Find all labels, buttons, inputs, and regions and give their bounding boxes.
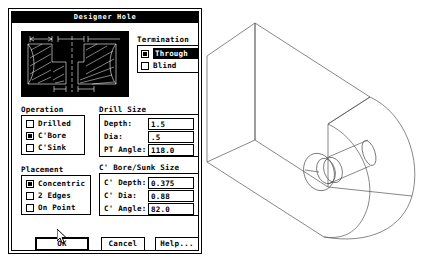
drill-shaft-top-line bbox=[326, 140, 368, 158]
radio-indicator-icon bbox=[26, 120, 34, 128]
radio-label: C'Bore bbox=[38, 131, 66, 140]
label-cbore-angle: C' Angle: bbox=[104, 204, 148, 213]
radio-operation-cbore[interactable]: C'Bore bbox=[26, 130, 66, 141]
radio-indicator-icon bbox=[141, 50, 149, 58]
ok-button[interactable]: OK bbox=[35, 237, 89, 251]
operation-group-box: Drilled C'Bore C'Sink bbox=[21, 115, 85, 155]
dialog-title: Designer Hole bbox=[74, 13, 137, 21]
radio-indicator-icon bbox=[26, 180, 34, 188]
field-row-cbore-dia: C' Dia: 0.88 bbox=[104, 189, 194, 202]
label-dia: Dia: bbox=[104, 132, 148, 141]
help-button[interactable]: Help... bbox=[155, 237, 199, 251]
cbore-size-group-label: C' Bore/Sunk Size bbox=[99, 163, 179, 172]
designer-hole-dialog: Designer Hole bbox=[8, 8, 202, 254]
radio-operation-drilled[interactable]: Drilled bbox=[26, 118, 71, 129]
drill-size-group-box: Depth: 1.5 Dia: .5 PT Angle: 118.0 bbox=[99, 114, 199, 157]
field-row-cbore-angle: C' Angle: 82.0 bbox=[104, 202, 194, 215]
block-top-seam bbox=[328, 97, 370, 124]
radio-label: Drilled bbox=[38, 119, 71, 128]
radio-label: C'Sink bbox=[38, 143, 66, 152]
preview-svg bbox=[22, 32, 128, 96]
cbore-size-group-box: C' Depth: 0.375 C' Dia: 0.88 C' Angle: 8… bbox=[99, 173, 199, 216]
input-depth[interactable]: 1.5 bbox=[148, 118, 194, 130]
radio-indicator-icon bbox=[26, 192, 34, 200]
input-cbore-angle[interactable]: 82.0 bbox=[148, 203, 194, 215]
radio-termination-through[interactable]: Through bbox=[141, 48, 198, 59]
radio-indicator-icon bbox=[26, 132, 34, 140]
radio-termination-blind[interactable]: Blind bbox=[141, 60, 177, 71]
operation-group-label: Operation bbox=[21, 105, 63, 114]
field-row-pt-angle: PT Angle: 118.0 bbox=[104, 143, 194, 156]
block-top-face bbox=[207, 23, 370, 124]
counterbore-back-ellipse bbox=[320, 155, 345, 185]
radio-label: On Point bbox=[38, 203, 76, 212]
label-cbore-depth: C' Depth: bbox=[104, 178, 148, 187]
radio-indicator-icon bbox=[141, 62, 149, 70]
radio-operation-csink[interactable]: C'Sink bbox=[26, 142, 66, 153]
cancel-button[interactable]: Cancel bbox=[101, 237, 145, 251]
cad-wireframe-svg bbox=[200, 0, 427, 262]
input-cbore-depth[interactable]: 0.375 bbox=[148, 177, 194, 189]
placement-group-label: Placement bbox=[21, 165, 63, 174]
field-row-dia: Dia: .5 bbox=[104, 130, 194, 143]
radio-indicator-icon bbox=[26, 144, 34, 152]
block-left-face bbox=[207, 23, 255, 162]
radio-label: 2 Edges bbox=[38, 191, 71, 200]
label-pt-angle: PT Angle: bbox=[104, 145, 148, 154]
placement-group-box: Concentric 2 Edges On Point bbox=[21, 175, 91, 215]
input-cbore-dia[interactable]: 0.88 bbox=[148, 190, 194, 202]
field-row-cbore-depth: C' Depth: 0.375 bbox=[104, 176, 194, 189]
radio-indicator-icon bbox=[26, 204, 34, 212]
label-depth: Depth: bbox=[104, 119, 148, 128]
radio-placement-on-point[interactable]: On Point bbox=[26, 202, 76, 213]
drill-size-group-label: Drill Size bbox=[99, 105, 146, 114]
drill-end-ellipse bbox=[359, 139, 378, 167]
input-dia[interactable]: .5 bbox=[148, 131, 194, 143]
block-rounded-outer-edge bbox=[324, 97, 415, 239]
block-rounded-inner-edge bbox=[324, 124, 370, 238]
hole-cross-section-preview bbox=[21, 31, 129, 97]
radio-placement-concentric[interactable]: Concentric bbox=[26, 178, 85, 189]
label-cbore-dia: C' Dia: bbox=[104, 191, 148, 200]
termination-group-box: Through Blind bbox=[137, 45, 199, 73]
termination-group-label: Termination bbox=[137, 35, 189, 44]
cad-model-viewport[interactable] bbox=[200, 0, 427, 262]
dialog-title-bar[interactable]: Designer Hole bbox=[12, 12, 198, 23]
input-pt-angle[interactable]: 118.0 bbox=[148, 144, 194, 156]
radio-placement-2-edges[interactable]: 2 Edges bbox=[26, 190, 71, 201]
radio-label: Blind bbox=[153, 61, 177, 70]
radio-label: Through bbox=[153, 48, 198, 59]
counterbore-inner-ellipse bbox=[313, 156, 338, 186]
field-row-depth: Depth: 1.5 bbox=[104, 117, 194, 130]
radio-label: Concentric bbox=[38, 179, 85, 188]
